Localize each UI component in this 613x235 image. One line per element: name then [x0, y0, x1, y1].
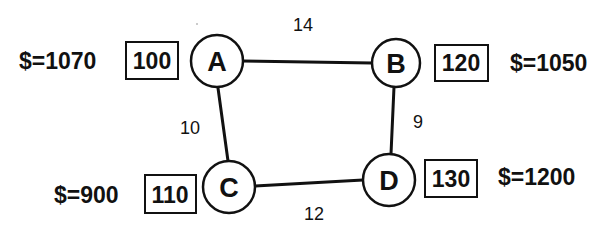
- edge-a-c: [218, 88, 228, 161]
- edge-c-d: [255, 180, 363, 186]
- node-c-money: $=900: [54, 182, 119, 208]
- node-c-label: C: [219, 173, 239, 203]
- edge-weight-c-d: 12: [304, 204, 324, 224]
- node-d-money: $=1200: [498, 164, 575, 190]
- edge-weight-a-c: 10: [180, 118, 200, 138]
- edge-a-b: [243, 61, 372, 63]
- node-d: D 130 $=1200: [363, 154, 575, 206]
- graph-diagram: 14 10 9 12 $=1070 100 A B 120 $=1050 $=9…: [0, 0, 613, 235]
- node-a-money: $=1070: [19, 48, 96, 74]
- node-a-label: A: [207, 47, 227, 77]
- edge-b-d: [391, 87, 394, 154]
- node-b-value: 120: [442, 50, 480, 76]
- node-d-value: 130: [432, 166, 470, 192]
- node-b-label: B: [386, 49, 406, 79]
- node-c: $=900 110 C: [54, 161, 255, 213]
- edge-weight-a-b: 14: [293, 15, 313, 35]
- node-b-money: $=1050: [510, 50, 587, 76]
- node-d-label: D: [379, 166, 399, 196]
- node-a: $=1070 100 A: [19, 35, 243, 87]
- scan-speck: [196, 23, 198, 25]
- node-a-value: 100: [133, 48, 171, 74]
- node-b: B 120 $=1050: [372, 39, 587, 87]
- edge-weight-b-d: 9: [413, 112, 423, 132]
- node-c-value: 110: [151, 182, 188, 208]
